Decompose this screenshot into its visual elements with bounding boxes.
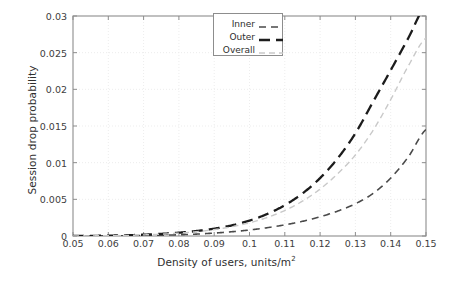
y-tick-label: 0 [22, 231, 67, 242]
x-axis-title-exponent: 2 [291, 255, 296, 263]
x-tick-label: 0.07 [133, 238, 154, 249]
y-axis-title: Session drop probability [26, 30, 38, 230]
x-tick-label: 0.11 [274, 238, 295, 249]
legend-line-sample [258, 18, 284, 30]
y-tick-label: 0.03 [22, 11, 67, 22]
x-tick-label: 0.15 [415, 238, 436, 249]
x-tick-label: 0.13 [345, 238, 366, 249]
x-tick-label: 0.06 [98, 238, 119, 249]
y-axis-title-text: Session drop probability [26, 66, 38, 195]
legend-item-overall: Overall [214, 43, 284, 56]
legend-label: Outer [214, 32, 258, 42]
x-tick-label: 0.1 [242, 238, 257, 249]
legend-line-sample [258, 44, 284, 56]
legend-item-inner: Inner [214, 17, 284, 30]
x-tick-label: 0.14 [380, 238, 401, 249]
legend-item-outer: Outer [214, 30, 284, 43]
x-tick-label: 0.09 [204, 238, 225, 249]
x-axis-title: Density of users, units/m2 [0, 255, 453, 268]
legend-label: Inner [214, 19, 258, 29]
x-tick-label: 0.12 [310, 238, 331, 249]
chart-figure: 0.050.060.070.080.090.10.110.120.130.140… [0, 0, 453, 281]
legend-label: Overall [214, 45, 258, 55]
legend-line-sample [258, 31, 284, 43]
legend: InnerOuterOverall [213, 13, 283, 56]
x-axis-title-text: Density of users, units/m [157, 256, 291, 268]
x-tick-label: 0.08 [168, 238, 189, 249]
